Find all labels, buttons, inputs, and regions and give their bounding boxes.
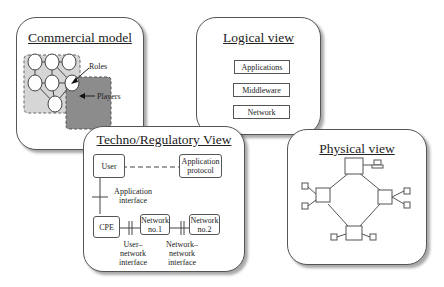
techno-regulatory-view-panel: Techno/Regulatory View User Application …: [83, 126, 245, 272]
network1-node: Network no.1: [140, 214, 170, 235]
players-label: Players: [97, 92, 121, 101]
layer-applications: Applications: [234, 60, 290, 74]
application-protocol-node: Application protocol: [179, 154, 222, 178]
user-network-interface-label: User– network interface: [116, 240, 150, 267]
computer-icon: [372, 160, 383, 168]
network2-node: Network no.2: [189, 214, 220, 235]
layer-network: Network: [233, 105, 290, 119]
application-interface-label: Application interface: [108, 187, 158, 205]
layer-middleware: Middleware: [233, 83, 290, 97]
logical-view-title: Logical view: [197, 30, 320, 46]
roles-label: Roles: [89, 62, 107, 71]
network-network-interface-label: Network– network interface: [162, 240, 202, 267]
cpe-node: CPE: [93, 216, 120, 238]
user-node: User: [93, 154, 125, 178]
physical-view-panel: Physical view: [287, 129, 427, 265]
physical-network-topology: [288, 130, 428, 266]
logical-view-panel: Logical view Applications Middleware Net…: [196, 17, 321, 135]
